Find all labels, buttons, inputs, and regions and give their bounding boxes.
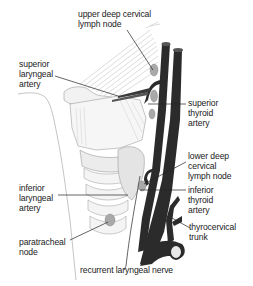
- label-line: lymph node: [188, 171, 231, 181]
- thyroid-cartilage: [70, 96, 146, 150]
- label-line: paratracheal: [19, 237, 66, 247]
- label-line: thyroid: [188, 195, 213, 205]
- paratracheal-node-shape: [105, 214, 115, 226]
- label-line: lymph node: [78, 19, 151, 29]
- label-recurrent-laryngeal-nerve: recurrent laryngeal nerve: [80, 265, 173, 275]
- label-line: artery: [19, 79, 53, 89]
- label-inferior-laryngeal-artery: inferior laryngeal artery: [19, 183, 53, 213]
- label-line: thyrocervical: [189, 222, 236, 232]
- label-line: inferior: [188, 185, 213, 195]
- label-lower-deep-cervical-lymph-node: lower deep cervical lymph node: [188, 151, 231, 181]
- label-line: recurrent laryngeal nerve: [80, 265, 173, 275]
- label-superior-laryngeal-artery: superior laryngeal artery: [19, 59, 53, 89]
- label-line: artery: [188, 205, 213, 215]
- label-line: upper deep cervical: [78, 9, 151, 19]
- label-line: laryngeal: [19, 193, 53, 203]
- label-line: thyroid: [188, 108, 218, 118]
- label-paratracheal-node: paratracheal node: [19, 237, 66, 257]
- label-line: inferior: [19, 183, 53, 193]
- label-line: lower deep: [188, 151, 231, 161]
- label-line: artery: [188, 118, 218, 128]
- label-line: cervical: [188, 161, 231, 171]
- anatomy-diagram: upper deep cervical lymph node superior …: [0, 0, 253, 286]
- label-line: laryngeal: [19, 69, 53, 79]
- label-superior-thyroid-artery: superior thyroid artery: [188, 98, 218, 128]
- upper-deep-cervical-node: [150, 64, 158, 76]
- label-upper-deep-cervical: upper deep cervical lymph node: [78, 9, 151, 29]
- label-inferior-thyroid-artery: inferior thyroid artery: [188, 185, 213, 215]
- label-line: superior: [188, 98, 218, 108]
- label-line: superior: [19, 59, 53, 69]
- pharyngeal-muscle: [80, 22, 160, 100]
- label-line: trunk: [189, 232, 236, 242]
- label-line: node: [19, 247, 66, 257]
- label-thyrocervical-trunk: thyrocervical trunk: [189, 222, 236, 242]
- vessel-lumen: [170, 245, 182, 259]
- label-line: artery: [19, 203, 53, 213]
